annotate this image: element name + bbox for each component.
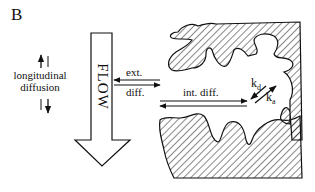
longitudinal-up-arrow-icon <box>41 55 48 68</box>
ka-subscript: a <box>272 97 276 106</box>
longitudinal-down-arrow-icon <box>41 99 48 113</box>
particle-lower-hatched-region <box>159 114 302 178</box>
external-label: ext. <box>126 66 142 78</box>
panel-label: B <box>11 5 22 25</box>
longitudinal-label-line2: diffusion <box>5 81 75 93</box>
ka-label: ka <box>266 90 276 106</box>
longitudinal-label-line1: longitudinal <box>5 69 75 81</box>
kd-subscript: d <box>257 83 261 92</box>
external-diffusion-arrows-icon <box>114 80 160 85</box>
longitudinal-diffusion-label: longitudinal diffusion <box>5 69 75 93</box>
internal-diffusion-arrows-icon <box>160 101 247 106</box>
flow-label: FLOW <box>94 57 111 117</box>
kd-label: kd <box>251 76 261 92</box>
internal-diffusion-label: int. diff. <box>183 86 219 98</box>
diffusion-label: diff. <box>126 86 144 98</box>
